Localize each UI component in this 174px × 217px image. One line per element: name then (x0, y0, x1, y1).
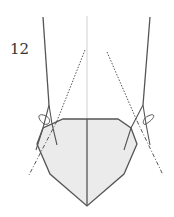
right-dotted-projection (107, 52, 137, 121)
hull-section-diagram (0, 0, 174, 217)
left-dotted-projection (57, 50, 85, 121)
right-shroud-line (143, 17, 150, 105)
right-dashdot-extension (137, 121, 163, 175)
right-chainplate-inner (143, 105, 150, 145)
left-shroud-line (43, 17, 49, 105)
